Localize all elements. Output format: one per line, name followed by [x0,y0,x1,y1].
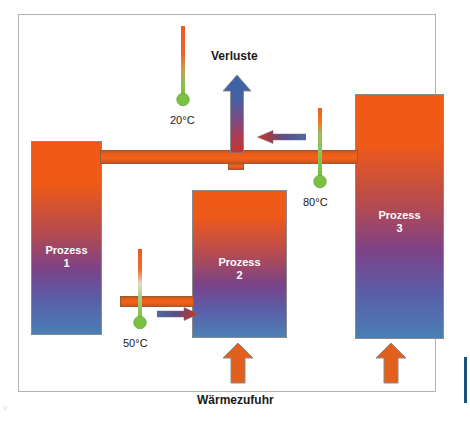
process-block-3[interactable]: Prozess 3 [355,94,444,339]
temperature-label-20: 20°C [170,114,195,126]
temperature-label-50: 50°C [123,337,148,349]
temperature-label-80: 80°C [303,196,328,208]
thermometer-icon [133,249,147,333]
process-block-1[interactable]: Prozess 1 [31,141,102,335]
process-1-number: 1 [45,257,87,270]
process-2-number: 2 [218,269,260,282]
arrow-right-icon [157,307,199,321]
thermometer-icon [313,108,327,192]
label-waermezufuhr: Wärmezufuhr [197,393,274,407]
pipe-top-stub [228,163,244,170]
process-3-text: Prozess 3 [378,209,420,235]
process-block-2[interactable]: Prozess 2 [192,190,287,338]
arrow-up-icon [375,342,407,384]
thermometer-icon [176,26,190,110]
pipe-lower-horizontal [120,296,194,307]
arrow-up-icon [222,74,252,154]
process-1-text: Prozess 1 [45,244,87,270]
process-3-number: 3 [378,222,420,235]
arrow-left-icon [256,130,306,144]
process-2-text: Prozess 2 [218,256,260,282]
edge-mark-left: ⁙ [2,404,7,413]
process-2-label: Prozess [218,256,260,269]
arrow-up-icon [222,342,254,384]
process-3-label: Prozess [378,209,420,222]
label-verluste: Verluste [211,49,258,63]
diagram-canvas: Prozess 1 Prozess 2 Prozess 3 [0,0,470,426]
process-1-label: Prozess [45,244,87,257]
edge-bar-decoration [464,357,467,403]
